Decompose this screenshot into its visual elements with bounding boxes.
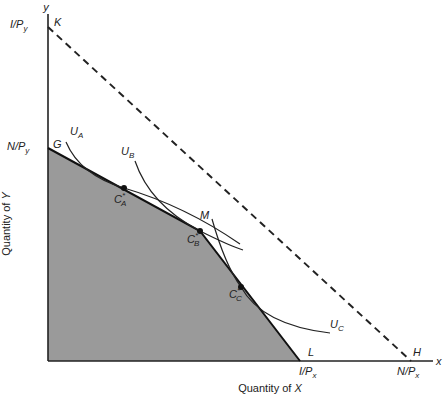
x-axis-title: Quantity of X	[238, 382, 302, 394]
point-k-label: K	[54, 16, 62, 28]
feasible-region	[48, 148, 300, 361]
point-l-label: L	[308, 346, 314, 358]
x-endowment-intercept-label: N/Px	[397, 365, 420, 380]
y-axis-name: y	[42, 1, 50, 13]
point-g-label: G	[53, 138, 62, 150]
point-m-label: M	[200, 209, 210, 221]
uc-label: UC	[330, 318, 344, 333]
ub-label: UB	[121, 145, 135, 160]
x-axis-name: x	[435, 355, 442, 367]
y-axis-title: Quantity of Y	[0, 192, 12, 256]
x-income-intercept-label: I/Px	[299, 365, 317, 380]
ua-label: UA	[70, 125, 83, 140]
y-income-intercept-label: I/Py	[10, 18, 28, 33]
point-h-label: H	[413, 346, 421, 358]
y-endowment-intercept-label: N/Py	[7, 140, 30, 155]
budget-constraint-diagram: y x I/Py K N/Py G UA UB UC C*A C*B C*C M…	[0, 0, 444, 399]
